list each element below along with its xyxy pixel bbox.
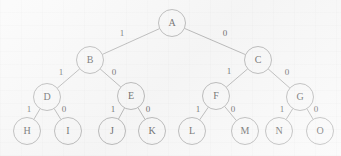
tree-node-n[interactable]: N bbox=[266, 118, 293, 145]
tree-node-i[interactable]: I bbox=[55, 118, 82, 145]
tree-node-a[interactable]: A bbox=[159, 10, 186, 37]
node-label-o: O bbox=[316, 125, 323, 136]
node-label-m: M bbox=[241, 125, 250, 136]
node-label-j: J bbox=[110, 125, 114, 136]
edge-label-f-l: 1 bbox=[196, 104, 201, 114]
node-label-g: G bbox=[296, 91, 303, 102]
node-label-l: L bbox=[189, 125, 195, 136]
tree-edge-g-o bbox=[307, 109, 313, 120]
tree-node-e[interactable]: E bbox=[118, 83, 145, 110]
node-label-e: E bbox=[128, 90, 134, 101]
edges-layer bbox=[34, 28, 313, 120]
edge-label-a-c: 0 bbox=[223, 28, 228, 38]
edge-label-c-g: 0 bbox=[285, 67, 290, 77]
node-label-f: F bbox=[213, 90, 219, 101]
tree-edge-b-e bbox=[100, 69, 121, 87]
tree-diagram-canvas: ABCDEFGHIJKLMNO 10101010101010 bbox=[0, 0, 341, 156]
edge-labels-layer: 10101010101010 bbox=[27, 28, 319, 114]
tree-edge-a-b bbox=[102, 29, 159, 55]
tree-node-j[interactable]: J bbox=[99, 118, 126, 145]
node-label-c: C bbox=[255, 54, 262, 65]
edge-label-b-e: 0 bbox=[112, 67, 117, 77]
tree-node-k[interactable]: K bbox=[139, 118, 166, 145]
tree-node-g[interactable]: G bbox=[287, 84, 314, 111]
tree-node-b[interactable]: B bbox=[77, 47, 104, 74]
binary-tree-svg: ABCDEFGHIJKLMNO 10101010101010 bbox=[0, 0, 341, 156]
edge-label-f-m: 0 bbox=[231, 104, 236, 114]
edge-label-c-f: 1 bbox=[227, 66, 232, 76]
node-label-h: H bbox=[23, 125, 30, 136]
edge-label-g-n: 1 bbox=[280, 104, 285, 114]
tree-node-h[interactable]: H bbox=[14, 118, 41, 145]
tree-edge-e-j bbox=[118, 108, 124, 119]
edge-label-d-h: 1 bbox=[27, 104, 32, 114]
edge-label-d-i: 0 bbox=[62, 104, 67, 114]
node-label-n: N bbox=[275, 125, 282, 136]
edge-label-e-k: 0 bbox=[146, 104, 151, 114]
edge-label-b-d: 1 bbox=[59, 67, 64, 77]
node-label-d: D bbox=[43, 91, 50, 102]
tree-edge-d-h bbox=[34, 109, 40, 120]
node-label-a: A bbox=[168, 17, 176, 28]
node-label-b: B bbox=[87, 54, 94, 65]
tree-node-m[interactable]: M bbox=[232, 118, 259, 145]
tree-edge-g-n bbox=[286, 108, 293, 119]
edge-label-e-j: 1 bbox=[111, 104, 116, 114]
edge-label-g-o: 0 bbox=[314, 104, 319, 114]
tree-edge-e-k bbox=[138, 108, 145, 120]
tree-node-c[interactable]: C bbox=[245, 47, 272, 74]
tree-node-d[interactable]: D bbox=[34, 84, 61, 111]
tree-edge-d-i bbox=[54, 108, 61, 119]
tree-edge-f-l bbox=[200, 107, 209, 120]
tree-edge-a-c bbox=[184, 28, 245, 54]
node-label-i: I bbox=[66, 125, 69, 136]
tree-node-o[interactable]: O bbox=[307, 118, 334, 145]
tree-node-f[interactable]: F bbox=[203, 83, 230, 110]
edge-label-a-b: 1 bbox=[120, 28, 125, 38]
tree-node-l[interactable]: L bbox=[179, 118, 206, 145]
node-label-k: K bbox=[148, 125, 156, 136]
